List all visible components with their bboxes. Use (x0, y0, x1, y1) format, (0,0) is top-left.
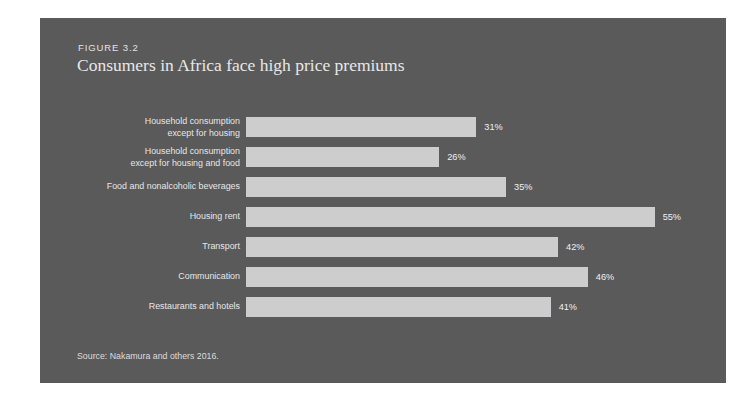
bar-track: 55% (246, 207, 726, 227)
bar-track: 26% (246, 147, 726, 167)
bar-category-label: Household consumption except for housing… (40, 146, 240, 169)
bar-value-label: 31% (484, 122, 502, 132)
bar-row: Household consumption except for housing… (40, 112, 726, 142)
bar-row: Food and nonalcoholic beverages35% (40, 172, 726, 202)
bar-fill (246, 147, 439, 167)
bar-track: 31% (246, 117, 726, 137)
bar-value-label: 41% (559, 302, 577, 312)
bar-value-label: 46% (596, 272, 614, 282)
bar-track: 42% (246, 237, 726, 257)
figure-number-label: FIGURE 3.2 (78, 42, 139, 53)
bar-category-label: Household consumption except for housing (40, 116, 240, 139)
bar-row: Housing rent55% (40, 202, 726, 232)
bar-value-label: 42% (566, 242, 584, 252)
bar-fill (246, 117, 476, 137)
page-title: Consumers in Africa face high price prem… (77, 55, 405, 76)
bar-chart-plot-area: Household consumption except for housing… (40, 112, 726, 334)
bar-fill (246, 237, 558, 257)
bar-row: Transport42% (40, 232, 726, 262)
bar-track: 41% (246, 297, 726, 317)
bar-value-label: 26% (447, 152, 465, 162)
source-note: Source: Nakamura and others 2016. (77, 351, 219, 361)
bar-track: 46% (246, 267, 726, 287)
bar-fill (246, 267, 588, 287)
bar-fill (246, 177, 506, 197)
bar-row: Restaurants and hotels41% (40, 292, 726, 322)
bar-fill (246, 297, 551, 317)
bar-category-label: Housing rent (40, 211, 240, 223)
bar-category-label: Food and nonalcoholic beverages (40, 181, 240, 193)
bar-category-label: Communication (40, 271, 240, 283)
bar-track: 35% (246, 177, 726, 197)
bar-category-label: Restaurants and hotels (40, 301, 240, 313)
bar-value-label: 55% (663, 212, 681, 222)
bar-category-label: Transport (40, 241, 240, 253)
figure-panel: FIGURE 3.2 Consumers in Africa face high… (40, 18, 726, 383)
bar-row: Communication46% (40, 262, 726, 292)
bar-row: Household consumption except for housing… (40, 142, 726, 172)
bar-fill (246, 207, 655, 227)
bar-value-label: 35% (514, 182, 532, 192)
